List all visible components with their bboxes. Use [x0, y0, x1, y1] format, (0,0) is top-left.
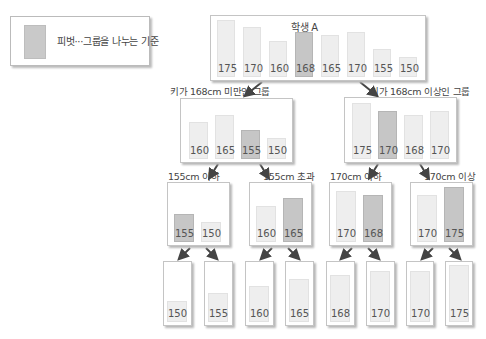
bar: 165	[321, 35, 339, 77]
level2-label-3: 170cm 이하	[330, 169, 381, 183]
leaf-box-3: 160	[245, 261, 274, 326]
bar: 150	[267, 138, 286, 159]
bar: 170	[417, 195, 437, 242]
leaf-box-6: 170	[366, 261, 395, 326]
pivot-bar: 155	[174, 214, 194, 242]
level2-box-1: 155 150	[167, 182, 230, 246]
bar: 175	[449, 265, 469, 322]
bar: 170	[410, 271, 430, 322]
leaf-box-1: 150	[163, 261, 192, 326]
level2-box-3: 170 168	[329, 182, 392, 246]
bar: 165	[215, 115, 234, 159]
bar: 175	[352, 103, 371, 159]
level2-label-2: 155cm 초과	[263, 169, 314, 183]
bar: 150	[201, 222, 221, 242]
bar: 165	[289, 279, 309, 322]
bar: 150	[399, 57, 417, 77]
root-box: 175 170 160 168 학생 A 165 170 155 150	[210, 15, 426, 81]
pivot-bar: 175	[444, 187, 464, 242]
bar: 170	[347, 32, 365, 77]
level1-right-label: 키가 168cm 이상인 그룹	[370, 84, 470, 98]
pivot-bar: 170	[378, 111, 397, 159]
pivot-bar: 165	[283, 198, 303, 242]
bar: 168	[404, 115, 423, 159]
bar: 168	[330, 275, 350, 322]
bar: 170	[243, 27, 261, 77]
pivot-bar: 168	[363, 195, 383, 242]
level2-box-2: 160 165	[249, 182, 312, 246]
bar: 160	[256, 206, 276, 242]
level1-left-label: 키가 168cm 미만인 그룹	[170, 84, 270, 98]
leaf-box-2: 155	[204, 261, 233, 326]
bar: 160	[269, 41, 287, 77]
root-title: 학생 A	[291, 19, 318, 34]
bar: 150	[167, 301, 187, 322]
leaf-box-4: 165	[285, 261, 314, 326]
bar: 170	[370, 271, 390, 322]
leaf-box-5: 168	[326, 261, 355, 326]
level1-left-box: 160 165 155 150	[180, 98, 293, 163]
level1-right-box: 175 170 168 170	[344, 97, 457, 163]
pivot-bar: 155	[241, 130, 260, 159]
bar: 170	[430, 111, 449, 159]
leaf-box-7: 170	[406, 261, 434, 326]
bar: 160	[249, 286, 269, 322]
pivot-bar: 168	[295, 32, 313, 77]
bar: 170	[336, 191, 356, 242]
level2-label-4: 170cm 이상	[424, 169, 475, 183]
bar: 155	[208, 293, 228, 322]
bar: 160	[189, 122, 208, 159]
leaf-box-8: 175	[445, 261, 473, 326]
level2-box-4: 170 175	[410, 182, 473, 246]
bar: 155	[373, 49, 391, 77]
bar: 175	[217, 20, 235, 77]
level2-label-1: 155cm 이하	[168, 169, 219, 183]
